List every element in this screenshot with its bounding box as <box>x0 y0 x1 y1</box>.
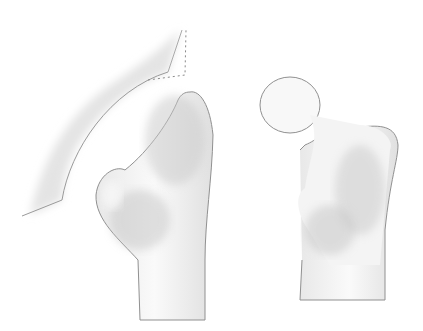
left-femur <box>96 92 213 320</box>
femur-illustration <box>0 0 423 331</box>
right-femur <box>260 77 398 300</box>
femoral-head <box>260 77 320 133</box>
